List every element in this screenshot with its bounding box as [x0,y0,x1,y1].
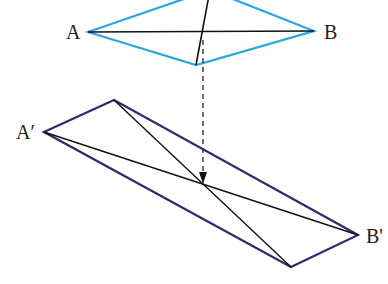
top-diagonal-ab [88,31,314,32]
label-a: A [66,21,81,43]
top-diagonal-vertical [196,0,210,65]
projection-diagram: A B A′ B' [0,0,388,284]
label-b: B [324,21,337,43]
label-b-prime: B' [366,225,383,247]
label-a-prime: A′ [16,121,35,143]
